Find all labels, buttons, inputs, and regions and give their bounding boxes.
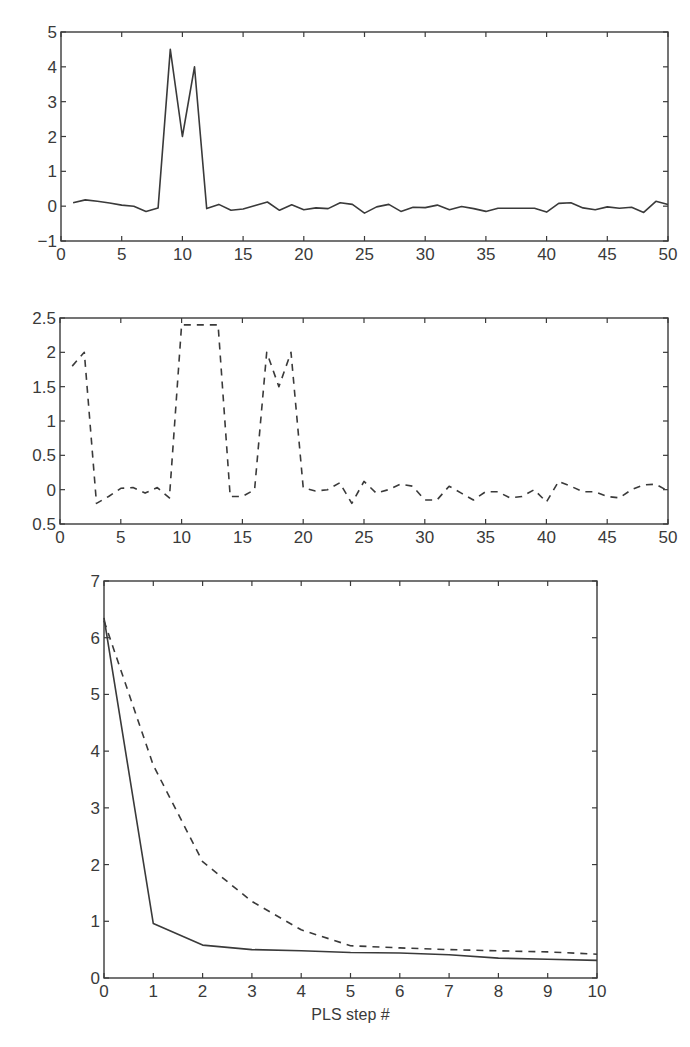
y-tick-label: 0.5: [32, 515, 56, 534]
y-tick-label: 3: [91, 799, 100, 818]
y-tick-label: 2: [47, 343, 56, 362]
x-tick-label: 5: [116, 528, 125, 547]
y-tick-label: 7: [91, 572, 100, 591]
y-tick-label: 0: [91, 969, 100, 988]
x-axis-label: PLS step #: [311, 1006, 389, 1023]
x-tick-label: 1: [149, 982, 158, 1001]
x-tick-label: 30: [415, 528, 434, 547]
y-tick-label: 3: [48, 93, 57, 112]
x-tick-label: 50: [659, 528, 678, 547]
y-tick-label: 2.5: [32, 309, 56, 328]
y-tick-label: 0: [47, 481, 56, 500]
y-tick-label: 2: [91, 856, 100, 875]
chart-middle: 051015202530354045500.500.511.522.5: [32, 309, 677, 547]
y-tick-label: 0: [48, 197, 57, 216]
plot-frame: [60, 318, 668, 524]
y-tick-label: 1: [91, 912, 100, 931]
y-tick-label: 5: [48, 23, 57, 42]
x-tick-label: 4: [296, 982, 305, 1001]
chart-top: 05101520253035404550−1012345: [38, 23, 678, 264]
x-tick-label: 40: [537, 528, 556, 547]
x-tick-label: 10: [588, 982, 607, 1001]
y-tick-label: 1: [48, 162, 57, 181]
x-tick-label: 25: [355, 528, 374, 547]
x-tick-label: 10: [172, 528, 191, 547]
x-tick-label: 50: [659, 245, 678, 264]
x-tick-label: 30: [416, 245, 435, 264]
x-tick-label: 0: [56, 245, 65, 264]
x-tick-label: 10: [173, 245, 192, 264]
x-tick-label: 20: [294, 245, 313, 264]
x-tick-label: 35: [476, 245, 495, 264]
x-tick-label: 7: [444, 982, 453, 1001]
x-tick-label: 25: [355, 245, 374, 264]
x-tick-label: 35: [476, 528, 495, 547]
y-tick-label: 6: [91, 629, 100, 648]
x-tick-label: 9: [543, 982, 552, 1001]
x-tick-label: 20: [294, 528, 313, 547]
series-dashed-line: [72, 325, 668, 504]
x-tick-label: 45: [598, 245, 617, 264]
y-tick-label: 1: [47, 412, 56, 431]
series-solid-line: [73, 49, 668, 213]
x-tick-label: 5: [117, 245, 126, 264]
series-dashed-line: [104, 621, 597, 955]
y-tick-label: 4: [91, 742, 100, 761]
x-tick-label: 5: [346, 982, 355, 1001]
figure-canvas: 05101520253035404550−1012345051015202530…: [0, 0, 690, 1047]
x-tick-label: 0: [55, 528, 64, 547]
x-tick-label: 40: [537, 245, 556, 264]
x-tick-label: 6: [395, 982, 404, 1001]
x-tick-label: 8: [494, 982, 503, 1001]
x-tick-label: 45: [598, 528, 617, 547]
series-solid-line: [104, 618, 597, 961]
y-tick-label: 4: [48, 58, 57, 77]
y-tick-label: 1.5: [32, 378, 56, 397]
plot-frame: [104, 581, 597, 978]
x-tick-label: 15: [234, 245, 253, 264]
x-tick-label: 15: [233, 528, 252, 547]
x-tick-label: 3: [247, 982, 256, 1001]
y-tick-label: 2: [48, 128, 57, 147]
chart-bottom: 01234567891001234567PLS step #: [91, 572, 607, 1023]
x-tick-label: 2: [198, 982, 207, 1001]
y-tick-label: 0.5: [32, 446, 56, 465]
y-tick-label: −1: [38, 232, 57, 251]
x-tick-label: 0: [99, 982, 108, 1001]
y-tick-label: 5: [91, 685, 100, 704]
